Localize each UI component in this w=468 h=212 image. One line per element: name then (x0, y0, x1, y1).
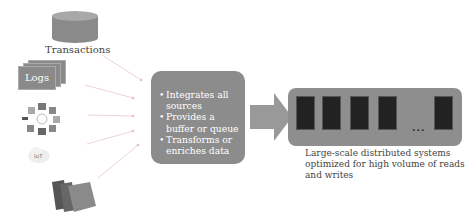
cloud-icon: IoT (26, 143, 52, 165)
storage-node (296, 96, 315, 130)
transactions-label: Transactions (45, 44, 110, 55)
folders-icon (50, 178, 98, 212)
logs-label: Logs (19, 67, 55, 89)
storage-node (378, 96, 397, 130)
storage-node (434, 96, 453, 130)
ellipsis: ... (412, 122, 425, 133)
storage-cluster: ... (288, 88, 462, 146)
integration-layer-box: Integrates all sources Provides a buffer… (151, 71, 245, 164)
hub-network-icon (22, 102, 62, 136)
database-cylinder-icon (51, 10, 99, 44)
logs-icon: Logs (18, 60, 68, 90)
cluster-caption: Large-scale distributed systems optimize… (305, 148, 465, 181)
bullet-buffer: Provides a buffer or queue (159, 111, 241, 133)
bullet-transforms: Transforms or enriches data (159, 134, 241, 156)
bullet-integrates: Integrates all sources (159, 89, 241, 111)
storage-node (350, 96, 369, 130)
storage-node (322, 96, 341, 130)
right-arrow-icon (250, 93, 292, 141)
svg-text:IoT: IoT (34, 153, 43, 159)
